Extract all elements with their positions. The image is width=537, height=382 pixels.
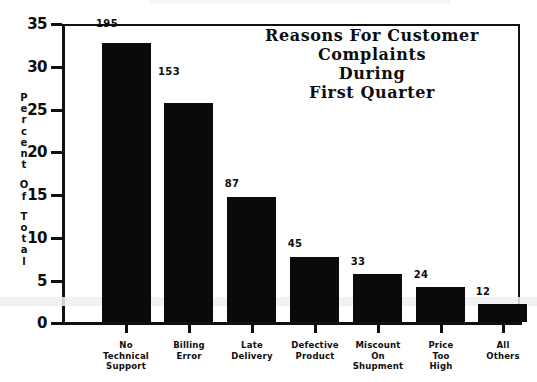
y-axis-title-letter: T [17,211,31,222]
y-tick-15 [51,194,62,197]
y-tick-5 [51,280,62,283]
y-axis-title-letter: t [17,233,31,244]
x-tick-6 [440,325,443,333]
x-category-label-all-others: All Others [457,340,537,361]
y-axis-title-space [17,170,31,179]
y-tick-label-0: 0 [13,314,47,332]
y-axis-title-letter: o [17,222,31,233]
chart-title-line: Complaints [236,45,508,64]
bar-value-label-3: 87 [202,178,262,189]
y-tick-20 [51,151,62,154]
x-category-line: Billing [173,340,205,350]
x-axis-line [62,322,522,325]
y-axis-title-letter: a [17,244,31,255]
x-category-line: Delivery [231,351,272,361]
y-axis-title-letter: l [17,256,31,267]
y-axis-title: P e r c e n t O f T o t a l [17,92,31,267]
x-category-line: Support [106,361,146,371]
y-axis-title-space [17,202,31,211]
x-tick-2 [188,325,191,333]
chart-title: Reasons For Customer Complaints During F… [236,26,508,102]
x-category-line: On [371,351,385,361]
x-category-line: Too [433,351,450,361]
y-axis-title-letter: P [17,92,31,103]
y-tick-label-5: 5 [13,272,47,290]
bar-all-others [478,304,527,322]
y-axis-title-letter: t [17,159,31,170]
x-tick-3 [251,325,254,333]
y-tick-0 [51,322,62,325]
x-category-line: No [119,340,132,350]
y-tick-label-35: 35 [13,15,47,33]
bar-late-delivery [227,197,276,322]
x-category-line: High [430,361,453,371]
bar-chart: 35 30 25 20 15 10 5 0 P e r c e n t O f … [0,0,537,382]
y-tick-30 [51,66,62,69]
bar-billing-error [164,103,213,322]
bar-miscount-on-shupment [353,274,402,322]
x-category-line: Miscount [355,340,400,350]
y-axis-title-letter: r [17,114,31,125]
bar-value-label-6: 24 [391,269,451,280]
y-axis-title-letter: c [17,126,31,137]
bar-no-technical-support [102,43,151,322]
y-axis-title-letter: f [17,191,31,202]
y-tick-25 [51,109,62,112]
x-category-line: All [496,340,509,350]
x-tick-7 [502,325,505,333]
x-category-line: Price [428,340,453,350]
x-tick-5 [377,325,380,333]
bar-value-label-1: 195 [77,18,137,29]
chart-title-line: First Quarter [236,83,508,102]
y-tick-label-30: 30 [13,58,47,76]
y-axis-title-letter: O [17,179,31,190]
x-tick-1 [125,325,128,333]
bar-value-label-5: 33 [328,256,388,267]
y-axis-title-letter: e [17,137,31,148]
scan-artifact-top [150,0,450,6]
bar-value-label-2: 153 [139,66,199,77]
y-axis-title-letter: e [17,103,31,114]
chart-title-line: Reasons For Customer [236,26,508,45]
y-tick-35 [51,23,62,26]
y-axis-title-letter: n [17,148,31,159]
y-tick-10 [51,237,62,240]
x-category-line: Late [241,340,263,350]
bar-value-label-4: 45 [265,238,325,249]
x-category-line: Others [486,351,520,361]
chart-title-line: During [236,64,508,83]
x-category-line: Error [176,351,201,361]
x-tick-4 [314,325,317,333]
bar-value-label-7: 12 [453,286,513,297]
x-category-line: Product [296,351,335,361]
